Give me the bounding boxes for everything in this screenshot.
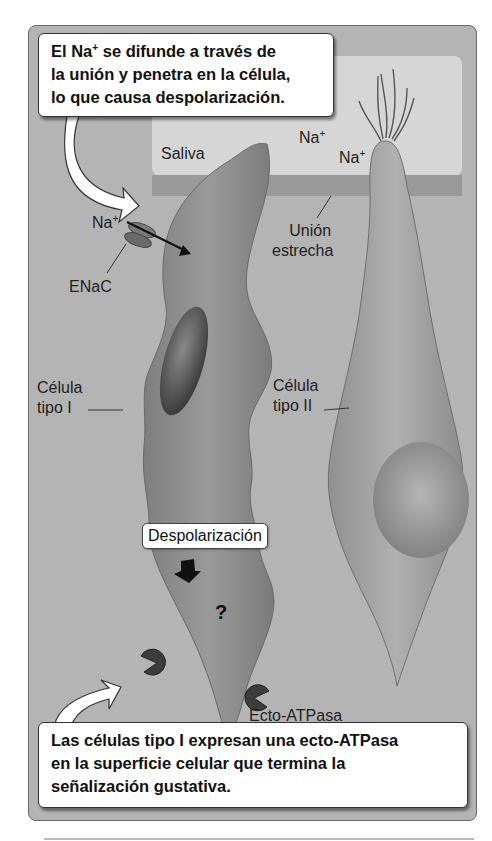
na-ion-label-3: Na+: [92, 213, 118, 233]
type2-cell-label: Célula tipo II: [273, 376, 318, 416]
type2-nucleus: [373, 442, 469, 558]
na-ion-label-2: Na+: [339, 148, 365, 168]
diagram-artwork: [29, 26, 477, 821]
na-ion-label-1: Na+: [299, 128, 325, 148]
saliva-label: Saliva: [161, 144, 205, 164]
type2-cell: [328, 141, 462, 686]
type1-cell-label: Célula tipo I: [37, 378, 82, 418]
depolarization-box: Despolarización: [142, 523, 268, 549]
type1-cell: [143, 143, 274, 731]
enac-label: ENaC: [69, 277, 112, 297]
bottom-callout: Las células tipo I expresan una ecto-ATP…: [38, 722, 468, 808]
tight-junction-label: Unión estrecha: [287, 221, 333, 261]
diagram-frame: Saliva Na+ Na+ Na+ Unión estrecha ENaC C…: [28, 25, 477, 821]
unknown-step-label: ?: [215, 601, 227, 624]
top-callout: El Na+ se difunde a través de la unión y…: [38, 33, 334, 117]
top-callout-arrow: [65, 116, 139, 222]
bottom-divider: [44, 838, 474, 840]
